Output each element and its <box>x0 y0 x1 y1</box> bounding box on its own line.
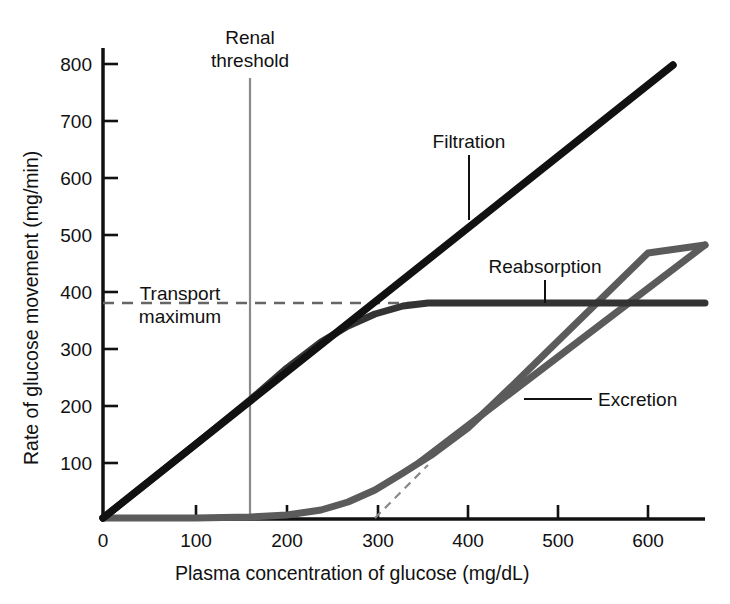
glucose-transport-chart: 100 200 300 400 500 600 700 800 0 100 20… <box>0 0 730 604</box>
renal-threshold-label-line2: threshold <box>190 49 310 72</box>
reabsorption-label: Reabsorption <box>465 255 625 278</box>
x-tick-label-0: 0 <box>73 531 133 550</box>
x-tick-label-400: 400 <box>438 531 498 550</box>
x-tick-label-100: 100 <box>166 531 226 550</box>
excretion-label: Excretion <box>598 388 677 411</box>
x-tick-label-600: 600 <box>618 531 678 550</box>
x-tick-label-300: 300 <box>348 531 408 550</box>
y-axis-ticks <box>103 64 118 463</box>
transport-maximum-label-line2: maximum <box>120 305 240 328</box>
y-tick-label-800: 800 <box>24 55 92 74</box>
transport-maximum-label-line1: Transport <box>120 282 240 305</box>
y-axis-title: Rate of glucose movement (mg/min) <box>20 151 43 465</box>
x-axis-title: Plasma concentration of glucose (mg/dL) <box>175 562 529 585</box>
x-tick-label-200: 200 <box>257 531 317 550</box>
filtration-label: Filtration <box>409 130 529 153</box>
transport-maximum-label: Transport maximum <box>120 282 240 328</box>
renal-threshold-label: Renal threshold <box>190 26 310 72</box>
y-tick-label-700: 700 <box>24 112 92 131</box>
renal-threshold-label-line1: Renal <box>190 26 310 49</box>
chart-plot-area <box>0 0 730 604</box>
x-tick-label-500: 500 <box>528 531 588 550</box>
